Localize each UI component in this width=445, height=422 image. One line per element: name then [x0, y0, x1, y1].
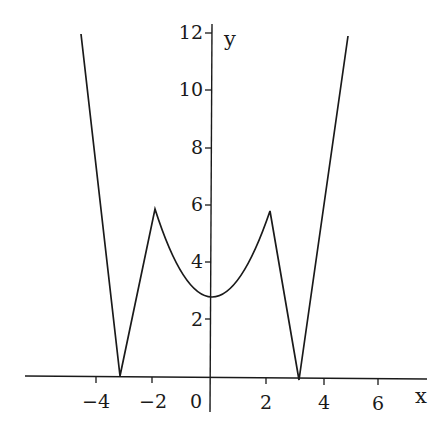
x-tick-label: 2 [260, 391, 272, 413]
y-axis-label: y [223, 27, 236, 51]
function-graph: −4 −2 0 2 4 6 12 10 8 6 4 2 y x [0, 0, 445, 422]
x-axis-label: x [415, 384, 427, 408]
function-curve [81, 34, 348, 380]
y-tick-label: 8 [191, 136, 203, 158]
x-tick-labels: −4 −2 0 2 4 6 [82, 390, 384, 414]
x-tick-label: −2 [139, 390, 167, 412]
x-tick-label: 6 [372, 392, 384, 414]
y-axis [210, 24, 212, 412]
y-tick-labels: 12 10 8 6 4 2 [179, 21, 203, 330]
y-tick-label: 12 [179, 21, 203, 43]
x-tick-label: 4 [318, 391, 330, 413]
y-tick-label: 4 [191, 250, 203, 272]
y-tick-label: 2 [191, 308, 203, 330]
y-tick-label: 6 [191, 193, 203, 215]
origin-label: 0 [190, 390, 202, 412]
x-axis [25, 376, 427, 379]
x-tick-label: −4 [82, 390, 110, 412]
y-tick-label: 10 [179, 78, 203, 100]
